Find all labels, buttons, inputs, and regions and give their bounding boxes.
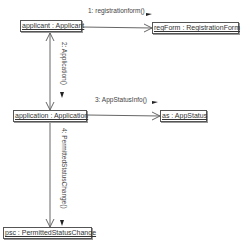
object-applicant[interactable]: applicant : Applicant	[20, 20, 82, 32]
object-permittedstatuschange[interactable]: psc : PermittedStatusChange	[3, 227, 92, 239]
object-regform[interactable]: regForm : RegistrationForm	[152, 22, 239, 34]
message-1-label: 1: registrationform()	[88, 7, 145, 14]
message-4-label: 4: PermittedStatusChange()	[61, 128, 68, 209]
object-application[interactable]: application : Application	[13, 110, 87, 122]
object-appstatus[interactable]: as : AppStatus	[160, 110, 207, 122]
connector-lines	[0, 0, 245, 244]
collaboration-diagram: applicant : Applicant regForm : Registra…	[0, 0, 245, 244]
message-3-label: 3: AppStatusInfo()	[95, 96, 147, 103]
message-2-label: 2: Application()	[61, 42, 68, 85]
